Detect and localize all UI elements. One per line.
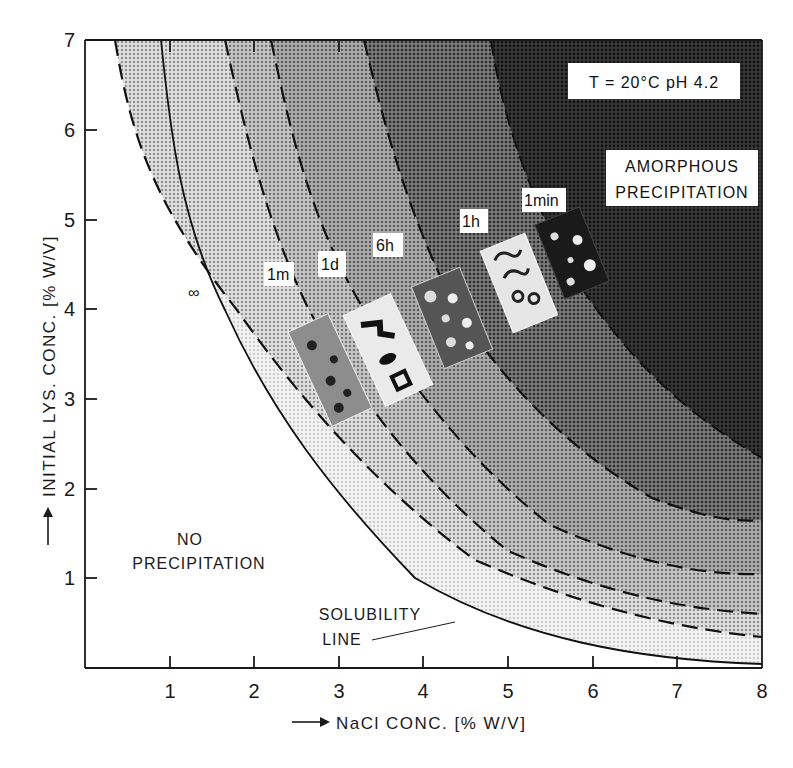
phase-diagram: 1 2 3 4 5 6 7 1 2 3 4 5 6 7 8 NaCl CONC.… xyxy=(0,0,793,768)
x-tick-8: 8 xyxy=(756,680,767,702)
leader-line xyxy=(372,622,455,640)
svg-text:LINE: LINE xyxy=(322,631,362,648)
label-1min: 1min xyxy=(524,192,559,209)
y-tick-5: 5 xyxy=(64,209,75,231)
x-tick-5: 5 xyxy=(502,680,513,702)
svg-text:NO: NO xyxy=(177,531,203,548)
x-tick-1: 1 xyxy=(164,680,175,702)
x-tick-7: 7 xyxy=(671,680,682,702)
y-tick-3: 3 xyxy=(64,388,75,410)
amorphous-precipitation-box: AMORPHOUS PRECIPITATION xyxy=(606,150,758,206)
y-tick-4: 4 xyxy=(64,298,75,320)
x-tick-labels: 1 2 3 4 5 6 7 8 xyxy=(164,680,767,702)
label-1d: 1d xyxy=(321,256,339,273)
y-tick-7: 7 xyxy=(64,29,75,51)
x-tick-6: 6 xyxy=(587,680,598,702)
arrow-head-icon xyxy=(320,717,330,727)
svg-text:PRECIPITATION: PRECIPITATION xyxy=(615,184,748,201)
y-axis-label: INITIAL LYS. CONC. [% W/V] xyxy=(40,235,59,497)
x-tick-4: 4 xyxy=(417,680,428,702)
arrow-head-icon xyxy=(43,507,53,517)
x-axis-label: NaCl CONC. [% W/V] xyxy=(336,714,526,733)
solubility-line-label: SOLUBILITY LINE xyxy=(319,606,455,648)
label-1h: 1h xyxy=(462,213,480,230)
conditions-box: T = 20°C pH 4.2 xyxy=(568,63,740,99)
svg-text:AMORPHOUS: AMORPHOUS xyxy=(625,158,739,175)
svg-text:T = 20°C pH 4.2: T = 20°C pH 4.2 xyxy=(589,74,719,91)
x-axis-title: NaCl CONC. [% W/V] xyxy=(292,714,526,733)
label-1m: 1m xyxy=(267,266,289,283)
y-tick-labels: 1 2 3 4 5 6 7 xyxy=(64,29,75,589)
x-tick-3: 3 xyxy=(333,680,344,702)
y-tick-2: 2 xyxy=(64,478,75,500)
x-tick-2: 2 xyxy=(248,680,259,702)
y-tick-1: 1 xyxy=(64,567,75,589)
y-tick-6: 6 xyxy=(64,119,75,141)
svg-text:SOLUBILITY: SOLUBILITY xyxy=(319,606,421,623)
svg-text:PRECIPITATION: PRECIPITATION xyxy=(132,555,265,572)
no-precipitation-label: NO PRECIPITATION xyxy=(132,531,265,572)
label-infinity: ∞ xyxy=(188,284,199,301)
label-6h: 6h xyxy=(376,237,394,254)
y-axis-title: INITIAL LYS. CONC. [% W/V] xyxy=(40,235,59,545)
